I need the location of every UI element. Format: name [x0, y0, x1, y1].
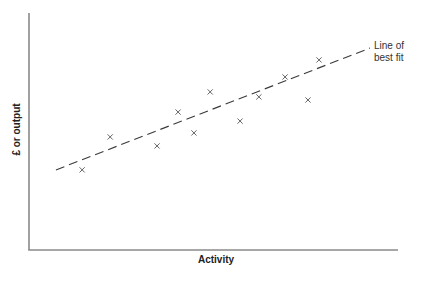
- data-point-x-marker: [237, 118, 242, 123]
- data-point-x-marker: [175, 109, 180, 114]
- data-point-x-marker: [154, 143, 159, 148]
- data-point-x-marker: [305, 97, 310, 102]
- y-axis-label: £ or output: [11, 80, 22, 180]
- annotation-line-2: best fit: [374, 52, 404, 64]
- data-points: [80, 57, 322, 172]
- line-of-best-fit: [56, 48, 370, 170]
- data-point-x-marker: [108, 134, 113, 139]
- trendline-annotation: Line of best fit: [374, 40, 404, 64]
- data-point-x-marker: [208, 89, 213, 94]
- data-point-x-marker: [316, 57, 321, 62]
- data-point-x-marker: [80, 167, 85, 172]
- data-point-x-marker: [282, 74, 287, 79]
- x-axis-label: Activity: [176, 254, 256, 265]
- data-point-x-marker: [191, 130, 196, 135]
- scatter-chart: [0, 0, 424, 281]
- data-point-x-marker: [256, 94, 261, 99]
- annotation-line-1: Line of: [374, 40, 404, 52]
